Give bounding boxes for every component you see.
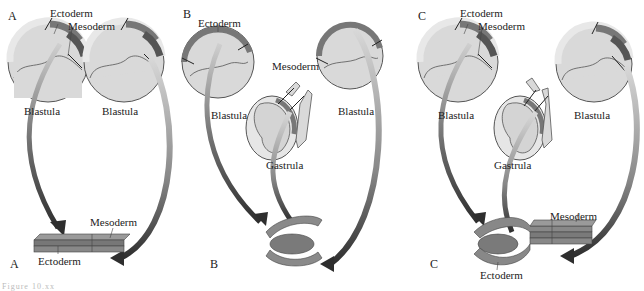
panel-a-result-ectoderm-label: Ectoderm bbox=[38, 256, 81, 267]
panel-b-ectoderm-label: Ectoderm bbox=[198, 18, 241, 29]
diagram-artwork bbox=[0, 0, 644, 291]
panel-c-gastrula-label: Gastrula bbox=[494, 160, 531, 171]
panel-a-label: A bbox=[8, 10, 17, 22]
panel-c-blastula-right bbox=[556, 22, 632, 102]
panel-a-blastula-left-label: Blastula bbox=[24, 106, 60, 117]
panel-c-tissue-combination bbox=[474, 214, 596, 270]
panel-b-gastrula-label: Gastrula bbox=[266, 160, 303, 171]
panel-c-result-ectoderm-label: Ectoderm bbox=[480, 270, 523, 281]
panel-a-mesoderm-label: Mesoderm bbox=[68, 21, 115, 32]
panel-c-gastrula bbox=[494, 78, 552, 160]
panel-b-mesoderm-label: Mesoderm bbox=[272, 61, 319, 72]
panel-c-blastula-left-label: Blastula bbox=[438, 110, 474, 121]
panel-c-label: C bbox=[418, 10, 426, 22]
panel-b-gastrula bbox=[246, 82, 312, 160]
panel-b-blastula-left bbox=[182, 26, 254, 98]
arrowhead-icon bbox=[560, 248, 574, 264]
panel-a-bottom-label: A bbox=[10, 258, 19, 270]
arrowhead-icon bbox=[320, 256, 334, 272]
arrowhead-icon bbox=[110, 250, 124, 266]
arrowhead-icon bbox=[50, 220, 66, 236]
panel-a-result-mesoderm-label: Mesoderm bbox=[90, 217, 137, 228]
panel-b-tissue-combination bbox=[266, 216, 322, 266]
panel-a-tissue-sandwich bbox=[34, 234, 130, 252]
panel-c-mesoderm-label: Mesoderm bbox=[478, 21, 525, 32]
embryo-transplant-diagram: A Ectoderm Mesoderm Blastula Blastula Me… bbox=[0, 0, 644, 291]
panel-b-blastula-right-label: Blastula bbox=[338, 106, 374, 117]
panel-c-result-mesoderm-label: Mesoderm bbox=[550, 211, 597, 222]
panel-c-ectoderm-label: Ectoderm bbox=[460, 8, 503, 19]
panel-a-blastula-right-label: Blastula bbox=[102, 106, 138, 117]
panel-b-blastula-left-label: Blastula bbox=[211, 110, 247, 121]
panel-c-bottom-label: C bbox=[430, 258, 438, 270]
panel-c-blastula-right-label: Blastula bbox=[574, 110, 610, 121]
panel-b-bottom-label: B bbox=[210, 258, 218, 270]
panel-b-label: B bbox=[183, 8, 191, 20]
panel-a-ectoderm-label: Ectoderm bbox=[50, 8, 93, 19]
figure-caption: Figure 10.xx bbox=[2, 282, 55, 291]
